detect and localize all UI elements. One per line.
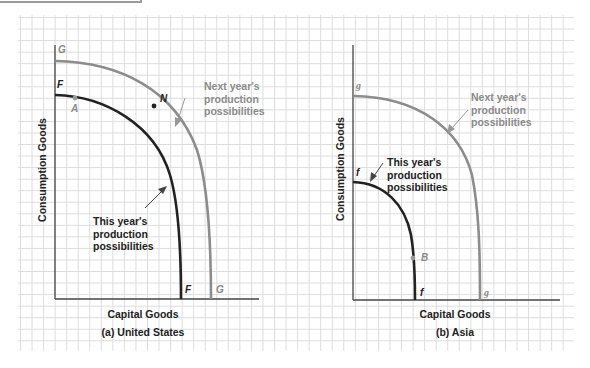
caption-left: (a) United States: [78, 326, 208, 338]
label-f-top: f: [356, 167, 359, 178]
label-g-bottom: g: [484, 287, 489, 298]
point-B: [411, 256, 416, 261]
annotation-next-year-right: Next year'sproductionpossibilities: [471, 91, 532, 129]
label-F-top: F: [57, 79, 63, 90]
x-axis-label-left: Capital Goods: [78, 308, 208, 320]
label-f-bottom: f: [420, 287, 423, 298]
label-N: N: [160, 93, 167, 104]
label-F-bottom: F: [185, 284, 191, 295]
y-axis-label-right: Consumption Goods: [334, 114, 346, 224]
x-axis-label-right: Capital Goods: [390, 308, 520, 320]
annotation-this-year-left: This year'sproductionpossibilities: [93, 215, 154, 253]
annotation-this-year-right: This year'sproductionpossibilities: [387, 156, 448, 194]
label-B: B: [421, 252, 428, 263]
label-A: A: [71, 103, 78, 114]
annotation-next-year-left: Next year'sproductionpossibilities: [204, 80, 265, 118]
label-G-bottom: G: [216, 284, 224, 295]
caption-right: (b) Asia: [390, 326, 520, 338]
label-g-top: g: [356, 80, 361, 91]
point-N: [152, 104, 157, 109]
curve-f-this-year: [353, 182, 415, 300]
curve-F-this-year: [55, 95, 181, 299]
curve-g-next-year: [353, 96, 480, 300]
point-A: [73, 96, 78, 101]
label-G-top: G: [58, 44, 66, 55]
right-axes: [353, 45, 560, 300]
y-axis-label-left: Consumption Goods: [36, 115, 48, 225]
